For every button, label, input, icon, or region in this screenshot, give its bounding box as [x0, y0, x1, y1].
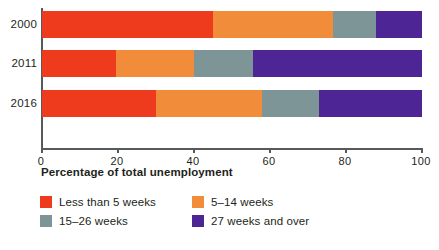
x-axis-tick-label: 60	[249, 155, 289, 167]
bar-segment	[213, 11, 333, 38]
x-axis-tick-mark	[421, 148, 423, 153]
category-label-2011: 2011	[0, 57, 37, 69]
bar-segment	[42, 11, 213, 38]
x-axis-tick-mark	[41, 148, 43, 153]
legend-item: 15–26 weeks	[40, 215, 192, 227]
x-axis-title: Percentage of total unemployment	[41, 166, 233, 178]
legend-swatch-less-than-5-weeks	[40, 196, 52, 208]
bar-segment	[262, 90, 319, 117]
x-axis-tick-label: 80	[325, 155, 365, 167]
legend-item: Less than 5 weeks	[40, 196, 192, 208]
legend-item-label: 15–26 weeks	[59, 215, 128, 227]
legend-item: 27 weeks and over	[192, 215, 344, 227]
x-axis-tick-label: 100	[401, 155, 439, 167]
legend-item-label: 5–14 weeks	[211, 196, 273, 208]
bar-segment	[156, 90, 262, 117]
chart-legend: Less than 5 weeks5–14 weeks15–26 weeks27…	[40, 196, 340, 227]
bar-segment	[42, 90, 156, 117]
legend-swatch-15-to-26-weeks	[40, 215, 52, 227]
legend-swatch-27-weeks-and-over	[192, 215, 204, 227]
x-axis-tick-mark	[193, 148, 195, 153]
bar-segment	[319, 90, 422, 117]
bar-segment	[42, 50, 116, 77]
legend-item: 5–14 weeks	[192, 196, 344, 208]
bar-segment	[116, 50, 194, 77]
bar-segment	[253, 50, 422, 77]
x-axis-tick-mark	[269, 148, 271, 153]
stacked-bar-chart: 2000 2011 2016 020406080100 Percentage o…	[0, 0, 439, 250]
bar-row	[42, 90, 422, 117]
x-axis-line	[41, 148, 421, 150]
bar-segment	[376, 11, 422, 38]
x-axis-tick-mark	[345, 148, 347, 153]
legend-item-label: Less than 5 weeks	[59, 196, 156, 208]
category-label-2016: 2016	[0, 97, 37, 109]
category-label-2000: 2000	[0, 18, 37, 30]
bar-segment	[194, 50, 253, 77]
legend-swatch-5-to-14-weeks	[192, 196, 204, 208]
bar-row	[42, 50, 422, 77]
legend-item-label: 27 weeks and over	[211, 215, 309, 227]
bar-row	[42, 11, 422, 38]
plot-area: 020406080100	[41, 8, 421, 148]
x-axis-tick-mark	[117, 148, 119, 153]
bar-segment	[333, 11, 377, 38]
